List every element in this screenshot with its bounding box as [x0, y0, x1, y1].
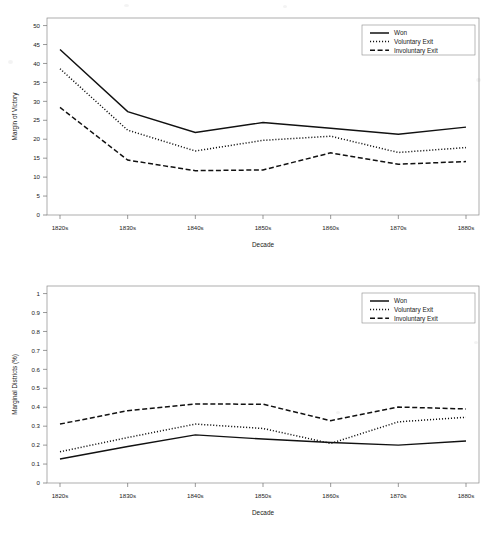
series-line-voluntary-exit — [60, 417, 466, 451]
y-tick-label: 45 — [33, 41, 40, 48]
x-tick-label: 1840s — [187, 224, 204, 231]
x-tick-label: 1860s — [322, 224, 339, 231]
y-tick-label: 0.9 — [32, 309, 41, 316]
legend-label: Involuntary Exit — [394, 47, 438, 55]
x-tick-label: 1860s — [322, 492, 339, 499]
series-line-won — [60, 435, 466, 459]
y-tick-label: 0.2 — [32, 441, 41, 448]
x-tick-label: 1830s — [119, 492, 136, 499]
x-tick-label: 1820s — [52, 224, 69, 231]
x-axis-title: Decade — [252, 241, 274, 248]
legend-label: Voluntary Exit — [394, 38, 433, 46]
series-line-won — [60, 49, 466, 134]
y-tick-label: 5 — [37, 192, 41, 199]
panel-marginal-districts: 00.10.20.30.40.50.60.70.80.911820s1830s1… — [0, 268, 504, 535]
y-tick-label: 0.5 — [32, 384, 41, 391]
chart-margin-of-victory: 051015202530354045501820s1830s1840s1850s… — [0, 0, 504, 267]
legend-label: Won — [394, 297, 407, 304]
y-tick-label: 0.3 — [32, 422, 41, 429]
y-tick-label: 40 — [33, 60, 40, 67]
legend-label: Won — [394, 29, 407, 36]
y-tick-label: 0.6 — [32, 366, 41, 373]
legend-label: Voluntary Exit — [394, 306, 433, 314]
y-tick-label: 30 — [33, 98, 40, 105]
series-line-voluntary-exit — [60, 69, 466, 153]
x-tick-label: 1850s — [255, 224, 272, 231]
x-tick-label: 1850s — [255, 492, 272, 499]
legend-label: Involuntary Exit — [394, 315, 438, 323]
x-tick-label: 1840s — [187, 492, 204, 499]
y-tick-label: 0.7 — [32, 347, 41, 354]
y-tick-label: 35 — [33, 79, 40, 86]
y-tick-label: 15 — [33, 154, 40, 161]
x-tick-label: 1880s — [458, 492, 475, 499]
series-line-involuntary-exit — [60, 107, 466, 170]
y-tick-label: 20 — [33, 135, 40, 142]
series-line-involuntary-exit — [60, 404, 466, 424]
x-tick-label: 1870s — [390, 224, 407, 231]
y-tick-label: 50 — [33, 22, 40, 29]
y-tick-label: 25 — [33, 116, 40, 123]
y-tick-label: 0.8 — [32, 328, 41, 335]
y-tick-label: 10 — [33, 173, 40, 180]
x-tick-label: 1830s — [119, 224, 136, 231]
panel-margin-of-victory: 051015202530354045501820s1830s1840s1850s… — [0, 0, 504, 267]
x-tick-label: 1870s — [390, 492, 407, 499]
y-tick-label: 0.1 — [32, 460, 41, 467]
x-tick-label: 1880s — [458, 224, 475, 231]
y-tick-label: 0 — [37, 479, 41, 486]
x-axis-title: Decade — [252, 509, 274, 516]
y-tick-label: 0 — [37, 211, 41, 218]
y-tick-label: 0.4 — [32, 403, 41, 410]
y-axis-title: Margin of Victory — [11, 92, 19, 141]
figure-two-panel-line-charts: 051015202530354045501820s1830s1840s1850s… — [0, 0, 504, 535]
chart-marginal-districts: 00.10.20.30.40.50.60.70.80.911820s1830s1… — [0, 268, 504, 535]
y-axis-title: Marginal Districts (%) — [11, 354, 19, 415]
x-tick-label: 1820s — [52, 492, 69, 499]
y-tick-label: 1 — [37, 290, 41, 297]
